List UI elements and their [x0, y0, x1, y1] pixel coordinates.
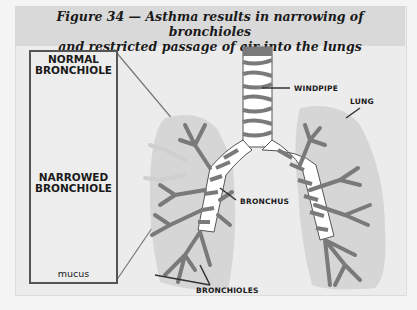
bronchiole-inset-panel	[29, 50, 118, 284]
normal-bronchiole-label: NORMAL BRONCHIOLE	[31, 54, 116, 76]
bronchioles-label: BRONCHIOLES	[196, 286, 259, 295]
narrowed-bronchiole-label: NARROWED BRONCHIOLE	[31, 172, 116, 194]
windpipe-label: WINDPIPE	[294, 84, 338, 93]
lung-callout-line	[346, 108, 360, 118]
bronchus-label: BRONCHUS	[240, 197, 289, 206]
lung-label: LUNG	[350, 97, 374, 106]
windpipe	[243, 47, 272, 147]
mucus-label: mucus	[31, 268, 116, 279]
